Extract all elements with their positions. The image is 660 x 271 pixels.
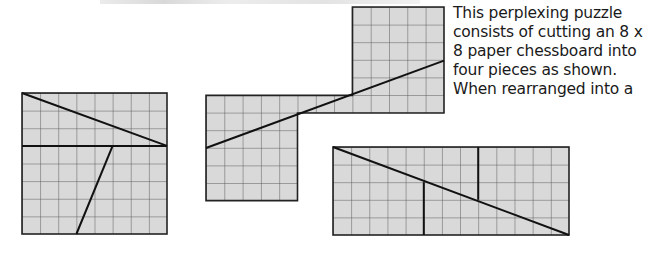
puzzle-caption: This perplexing puzzle consists of cutti…: [453, 4, 658, 99]
caption-line: consists of cutting an 8 x: [453, 23, 658, 42]
rearranged-rectangle: [333, 147, 569, 235]
caption-line: four pieces as shown.: [453, 61, 658, 80]
caption-line: When rearranged into a: [453, 80, 658, 99]
original-chessboard: [22, 93, 167, 234]
caption-line: 8 paper chessboard into: [453, 42, 658, 61]
caption-line: This perplexing puzzle: [453, 4, 658, 23]
